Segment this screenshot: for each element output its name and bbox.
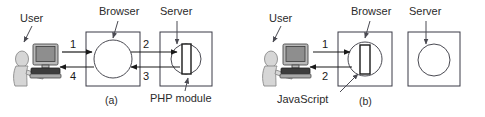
panel-b-monitor-screen: [286, 47, 305, 62]
panel-a-arrow-3-number: 3: [143, 70, 149, 82]
panel-a-keyboard: [31, 68, 60, 74]
panel-a-arrow-1-number: 1: [70, 38, 76, 50]
panel-a-browser-label: Browser: [99, 5, 140, 17]
panel-a-keyboard-base: [30, 74, 61, 78]
panel-a-arrow-2-number: 2: [143, 38, 149, 50]
panel-b-javascript-label: JavaScript: [277, 93, 328, 105]
panel-b: User Browser Server JavaScript (b) 1 2: [263, 5, 460, 107]
panel-a-user-label: User: [20, 12, 44, 24]
panel-b-javascript-module-rect: [360, 45, 370, 74]
panel-a-server-label: Server: [160, 5, 193, 17]
panel-a-php-module-label: PHP module: [150, 92, 212, 104]
panel-b-caption: (b): [359, 95, 372, 107]
panel-a-person-body: [14, 66, 28, 86]
panel-a-php-module-rect: [182, 44, 191, 74]
panel-a-arrow-4-number: 4: [70, 70, 76, 82]
panel-a-monitor-screen: [36, 47, 55, 62]
panel-b-user-leader: [273, 26, 281, 42]
panel-a-user-leader: [24, 26, 32, 42]
panel-b-arrow-2-number: 2: [322, 70, 328, 82]
panel-a-user-illustration: [14, 44, 61, 86]
figure-diagram: User Browser Server PHP module (a) 1 2 3…: [0, 0, 485, 117]
panel-a-person-head: [16, 51, 29, 67]
panel-b-user-label: User: [269, 12, 293, 24]
panel-b-keyboard-base: [280, 74, 311, 78]
panel-b-person-body: [263, 66, 277, 86]
panel-a-monitor-stand: [42, 65, 49, 68]
panel-b-user-illustration: [263, 44, 311, 86]
panel-b-server-circle: [418, 44, 450, 76]
panel-a: User Browser Server PHP module (a) 1 2 3…: [14, 5, 212, 106]
diagram-canvas: User Browser Server PHP module (a) 1 2 3…: [0, 0, 485, 117]
panel-a-browser-circle: [94, 40, 132, 78]
panel-b-monitor-stand: [292, 65, 299, 68]
panel-b-server-label: Server: [409, 5, 442, 17]
panel-a-caption: (a): [105, 94, 118, 106]
panel-b-person-head: [265, 51, 278, 67]
panel-b-arrow-1-number: 1: [322, 38, 328, 50]
panel-b-browser-label: Browser: [351, 5, 392, 17]
panel-b-keyboard: [281, 68, 310, 74]
